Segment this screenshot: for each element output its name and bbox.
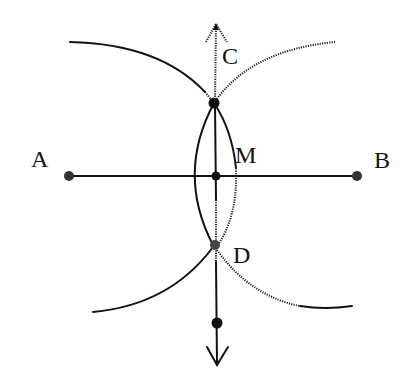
label-d: D bbox=[233, 242, 250, 268]
bisector-diagram: A B C D M bbox=[0, 0, 407, 386]
point-e bbox=[212, 318, 223, 329]
arc-upper-left bbox=[70, 42, 205, 92]
label-c: C bbox=[222, 43, 238, 69]
label-a: A bbox=[31, 146, 49, 172]
arc-lower-right-dotted bbox=[217, 250, 300, 306]
bisector-middle bbox=[215, 103, 216, 200]
point-c bbox=[209, 98, 220, 109]
point-a bbox=[64, 171, 74, 181]
bisector-upper-dotted bbox=[215, 26, 216, 103]
point-d bbox=[210, 240, 220, 250]
arc-lower-left bbox=[93, 247, 213, 312]
arc-lower-right bbox=[300, 306, 352, 308]
point-m bbox=[212, 172, 221, 181]
point-b bbox=[352, 171, 362, 181]
lens-arc-right-upper bbox=[214, 103, 236, 168]
lens-arc-right-lower bbox=[218, 168, 236, 245]
lens-arc-left bbox=[195, 103, 214, 245]
label-m: M bbox=[235, 142, 256, 168]
bisector-lower bbox=[216, 262, 217, 364]
label-b: B bbox=[374, 147, 390, 173]
